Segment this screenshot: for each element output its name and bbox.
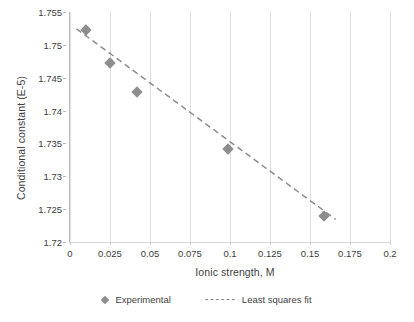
- plot-area: [70, 12, 390, 242]
- gridline-vertical: [390, 12, 391, 242]
- x-tick-mark: [150, 242, 151, 245]
- x-tick-mark: [390, 242, 391, 245]
- x-tick-label: 0.025: [98, 248, 122, 259]
- y-tick-mark: [63, 12, 66, 13]
- chart-container: Conditional constant (E-5) 1.721.7251.73…: [0, 0, 414, 322]
- y-tick-label: 1.755: [38, 7, 62, 18]
- x-tick-label: 0.175: [338, 248, 362, 259]
- legend-item-experimental: Experimental: [102, 294, 170, 305]
- legend-label-least-squares-fit: Least squares fit: [242, 294, 312, 305]
- x-tick-mark: [190, 242, 191, 245]
- y-tick-mark: [63, 176, 66, 177]
- chart-legend: Experimental Least squares fit: [0, 294, 414, 305]
- diamond-marker-icon: [101, 295, 109, 303]
- legend-label-experimental: Experimental: [115, 294, 170, 305]
- dashed-line-icon: [205, 299, 235, 300]
- y-tick-label: 1.73: [44, 171, 63, 182]
- y-tick-mark: [63, 45, 66, 46]
- y-tick-label: 1.75: [44, 39, 63, 50]
- y-tick-mark: [63, 78, 66, 79]
- x-tick-label: 0.125: [258, 248, 282, 259]
- y-axis-tick-labels: 1.721.7251.731.7351.741.7451.751.755: [0, 12, 66, 242]
- x-tick-label: 0.1: [223, 248, 236, 259]
- x-tick-mark: [310, 242, 311, 245]
- x-tick-mark: [270, 242, 271, 245]
- x-tick-label: 0.15: [301, 248, 320, 259]
- y-tick-label: 1.745: [38, 72, 62, 83]
- y-tick-mark: [63, 143, 66, 144]
- x-tick-label: 0.2: [383, 248, 396, 259]
- x-tick-mark: [350, 242, 351, 245]
- legend-item-least-squares-fit: Least squares fit: [205, 294, 312, 305]
- least-squares-fit-line: [70, 12, 390, 242]
- y-tick-label: 1.72: [44, 237, 63, 248]
- x-axis-tick-labels: 00.0250.050.0750.10.1250.150.1750.2: [70, 244, 390, 262]
- x-tick-label: 0.075: [178, 248, 202, 259]
- x-axis-title: Ionic strength, M: [70, 266, 400, 278]
- y-tick-label: 1.725: [38, 204, 62, 215]
- x-tick-mark: [70, 242, 71, 245]
- x-tick-label: 0.05: [141, 248, 160, 259]
- y-tick-mark: [63, 111, 66, 112]
- x-tick-mark: [230, 242, 231, 245]
- x-tick-label: 0: [67, 248, 72, 259]
- y-tick-label: 1.735: [38, 138, 62, 149]
- y-tick-mark: [63, 209, 66, 210]
- x-tick-mark: [110, 242, 111, 245]
- y-tick-label: 1.74: [44, 105, 63, 116]
- y-tick-mark: [63, 242, 66, 243]
